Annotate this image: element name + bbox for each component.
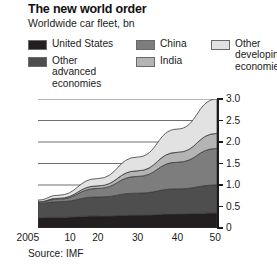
legend-label: United States: [52, 38, 113, 49]
y-axis-tick: [217, 120, 223, 121]
legend-swatch-icon: [211, 40, 230, 50]
x-axis-tick-label: 2005: [17, 232, 40, 243]
legend-label: India: [160, 55, 182, 66]
y-axis-tick: [217, 227, 223, 228]
stacked-area-chart: [38, 99, 217, 228]
legend-swatch-icon: [136, 57, 155, 67]
x-axis-tick-label: 10: [64, 232, 75, 243]
y-axis-tick-label: 3.0: [226, 94, 240, 104]
y-axis-tick: [217, 184, 223, 185]
y-axis-tick-label: 0: [226, 223, 232, 233]
source-note: Source: IMF: [28, 248, 83, 259]
legend-label: Other developing economies: [235, 38, 277, 72]
y-axis-tick-label: 2.5: [226, 116, 240, 126]
y-axis-tick-label: 1.0: [226, 180, 240, 190]
chart-legend: United States Other advanced economies C…: [28, 38, 274, 86]
y-axis-tick: [217, 141, 223, 142]
y-axis-tick: [217, 163, 223, 164]
x-axis-tick-label: 30: [132, 232, 143, 243]
y-axis-tick: [217, 206, 223, 207]
legend-swatch-icon: [28, 57, 47, 67]
legend-item-india[interactable]: India: [136, 55, 182, 67]
x-axis-tick-label: 20: [92, 232, 103, 243]
y-axis-tick-label: 0.5: [226, 202, 240, 212]
legend-item-china[interactable]: China: [136, 38, 187, 50]
legend-label: Other advanced economies: [52, 55, 122, 89]
legend-swatch-icon: [136, 40, 155, 50]
x-axis-tick-label: 40: [172, 232, 183, 243]
page-title: The new world order: [28, 2, 146, 16]
y-axis-tick-label: 1.5: [226, 159, 240, 169]
legend-item-united-states[interactable]: United States: [28, 38, 113, 50]
chart-plot-area: [38, 99, 217, 228]
legend-swatch-icon: [28, 40, 47, 50]
y-axis-tick: [217, 98, 223, 99]
legend-label: China: [160, 38, 187, 49]
y-axis-tick-label: 2.0: [226, 137, 240, 147]
x-axis-tick-label: 50: [210, 232, 221, 243]
legend-item-other-developing[interactable]: Other developing economies: [211, 38, 277, 72]
chart-subtitle: Worldwide car fleet, bn: [28, 17, 135, 29]
legend-item-other-advanced[interactable]: Other advanced economies: [28, 55, 122, 89]
chart-card: The new world order Worldwide car fleet,…: [0, 0, 277, 268]
